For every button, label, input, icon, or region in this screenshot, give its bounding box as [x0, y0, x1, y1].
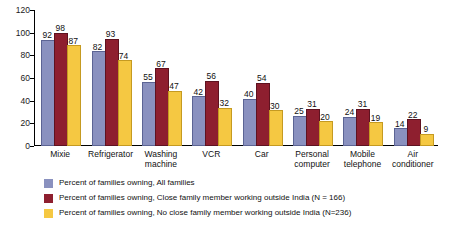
legend-label: Percent of families owning, No close fam… [59, 209, 351, 217]
y-axis-tick-20: 20 [21, 119, 30, 128]
bar [218, 108, 232, 146]
bar-value-label: 31 [353, 100, 371, 109]
bar-group: 243119 [337, 10, 387, 146]
y-axis-tick-labels: 020406080100120 [0, 0, 34, 146]
bar [192, 96, 206, 146]
chart-legend: Percent of families owning, All families… [44, 176, 444, 221]
plot-area: 020406080100120 929887829374556747425632… [0, 0, 449, 168]
legend-swatch [44, 179, 53, 188]
bar-value-label: 74 [115, 52, 133, 61]
bars-container: 9298878293745567474256324054302531202431… [35, 10, 438, 146]
bar-group: 556747 [136, 10, 186, 146]
x-axis-category-label: Personalcomputer [287, 149, 337, 169]
bar-value-label: 87 [64, 37, 82, 46]
bar [205, 81, 219, 146]
legend-swatch [44, 209, 53, 218]
y-axis-tick-100: 100 [16, 28, 30, 37]
bar [420, 134, 434, 146]
y-axis-tickmark-0 [30, 146, 34, 147]
x-axis-category-label: Washingmachine [136, 149, 186, 169]
bar-value-label: 56 [202, 72, 220, 81]
bar [54, 33, 68, 146]
bar [92, 51, 106, 146]
y-axis-tick-80: 80 [21, 51, 30, 60]
bar-value-label: 98 [51, 24, 69, 33]
bar-value-label: 32 [215, 99, 233, 108]
legend-item: Percent of families owning, No close fam… [44, 206, 444, 220]
bar [41, 40, 55, 146]
bar-group: 405430 [237, 10, 287, 146]
legend-item: Percent of families owning, All families [44, 176, 444, 190]
y-axis-tick-120: 120 [16, 6, 30, 15]
bar [168, 91, 182, 146]
bar-value-label: 67 [152, 60, 170, 69]
y-axis-tick-60: 60 [21, 74, 30, 83]
x-axis-category-label: Mixie [35, 149, 85, 159]
bar [142, 82, 156, 146]
bar [155, 68, 169, 146]
bar-chart: 020406080100120 929887829374556747425632… [0, 0, 449, 231]
bar [243, 99, 257, 146]
legend-label: Percent of families owning, Close family… [59, 194, 345, 202]
x-axis-category-label: Mobiletelephone [337, 149, 387, 169]
x-axis-category-label: Refrigerator [85, 149, 135, 159]
bar-value-label: 47 [165, 82, 183, 91]
x-axis-category-label: Airconditioner [388, 149, 438, 169]
bar [269, 110, 283, 146]
x-axis-category-label: VCR [186, 149, 236, 159]
bar-group: 425632 [186, 10, 236, 146]
bar-value-label: 30 [266, 102, 284, 111]
legend-item: Percent of families owning, Close family… [44, 191, 444, 205]
bar-value-label: 31 [303, 100, 321, 109]
bar [343, 117, 357, 146]
bar [369, 122, 383, 146]
legend-label: Percent of families owning, All families [59, 179, 195, 187]
x-axis-category-label: Car [237, 149, 287, 159]
legend-swatch [44, 194, 53, 203]
bar-value-label: 9 [417, 125, 435, 134]
bar [293, 116, 307, 146]
bar-value-label: 22 [404, 111, 422, 120]
bar [256, 83, 270, 146]
bar [319, 121, 333, 146]
bar [118, 60, 132, 146]
bar [394, 128, 408, 146]
bar-group: 253120 [287, 10, 337, 146]
bar-group: 829374 [85, 10, 135, 146]
bar-value-label: 54 [253, 74, 271, 83]
y-axis-tick-40: 40 [21, 96, 30, 105]
bar-group: 14229 [388, 10, 438, 146]
bar [67, 45, 81, 146]
bar-value-label: 19 [366, 114, 384, 123]
bar-value-label: 20 [316, 113, 334, 122]
bar-value-label: 93 [102, 30, 120, 39]
bar-group: 929887 [35, 10, 85, 146]
